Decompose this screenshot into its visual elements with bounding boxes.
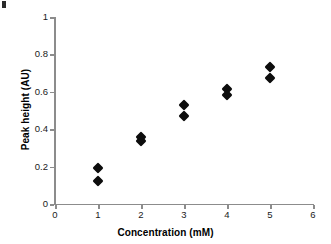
x-axis-tick-label: 0	[45, 210, 65, 220]
x-axis-tick-label: 5	[260, 210, 280, 220]
x-axis-title: Concentration (mM)	[0, 227, 331, 238]
data-point-marker	[92, 175, 103, 186]
x-axis-tick-label: 6	[303, 210, 323, 220]
y-axis-tick	[50, 204, 54, 206]
y-axis-tick-label: 0.2	[35, 162, 48, 172]
y-axis-tick	[50, 167, 54, 169]
y-axis-tick-label: 0.8	[35, 49, 48, 59]
x-axis-tick-label: 2	[131, 210, 151, 220]
y-axis-tick-label: 0	[43, 199, 48, 209]
y-axis-tick-label: 1	[43, 12, 48, 22]
data-point-marker	[92, 163, 103, 174]
scatter-chart-figure: 1 0.8 0.6 0.4 0.2 0 0 1 2 3 4 5 6 Concen…	[0, 0, 331, 244]
x-axis-tick-label: 1	[88, 210, 108, 220]
data-point-marker	[178, 99, 189, 110]
y-axis-tick	[50, 17, 54, 19]
x-axis-tick-label: 3	[174, 210, 194, 220]
y-axis-title: Peak height (AU)	[20, 35, 31, 185]
y-axis-tick	[50, 54, 54, 56]
y-axis-tick	[50, 129, 54, 131]
data-point-marker	[264, 61, 275, 72]
scan-artifact-mark	[2, 1, 6, 8]
y-axis-tick-label: 0.4	[35, 124, 48, 134]
x-axis-tick-label: 4	[217, 210, 237, 220]
y-axis-tick-label: 0.6	[35, 87, 48, 97]
data-point-marker	[178, 110, 189, 121]
data-point-marker	[264, 72, 275, 83]
plot-area	[55, 17, 313, 204]
y-axis-tick	[50, 92, 54, 94]
